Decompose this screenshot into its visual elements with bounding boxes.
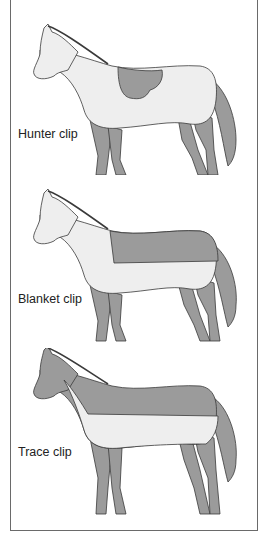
horse-trace-clip-illustration (0, 348, 266, 533)
label-trace-clip: Trace clip (18, 445, 72, 459)
panel-blanket-clip: Blanket clip (0, 175, 266, 355)
panel-trace-clip: Trace clip (0, 348, 266, 533)
label-blanket-clip: Blanket clip (18, 292, 82, 306)
label-hunter-clip: Hunter clip (18, 127, 78, 141)
horse-blanket-clip-illustration (0, 175, 266, 355)
horse-hunter-clip-illustration (0, 0, 266, 175)
panel-hunter-clip: Hunter clip (0, 0, 266, 175)
